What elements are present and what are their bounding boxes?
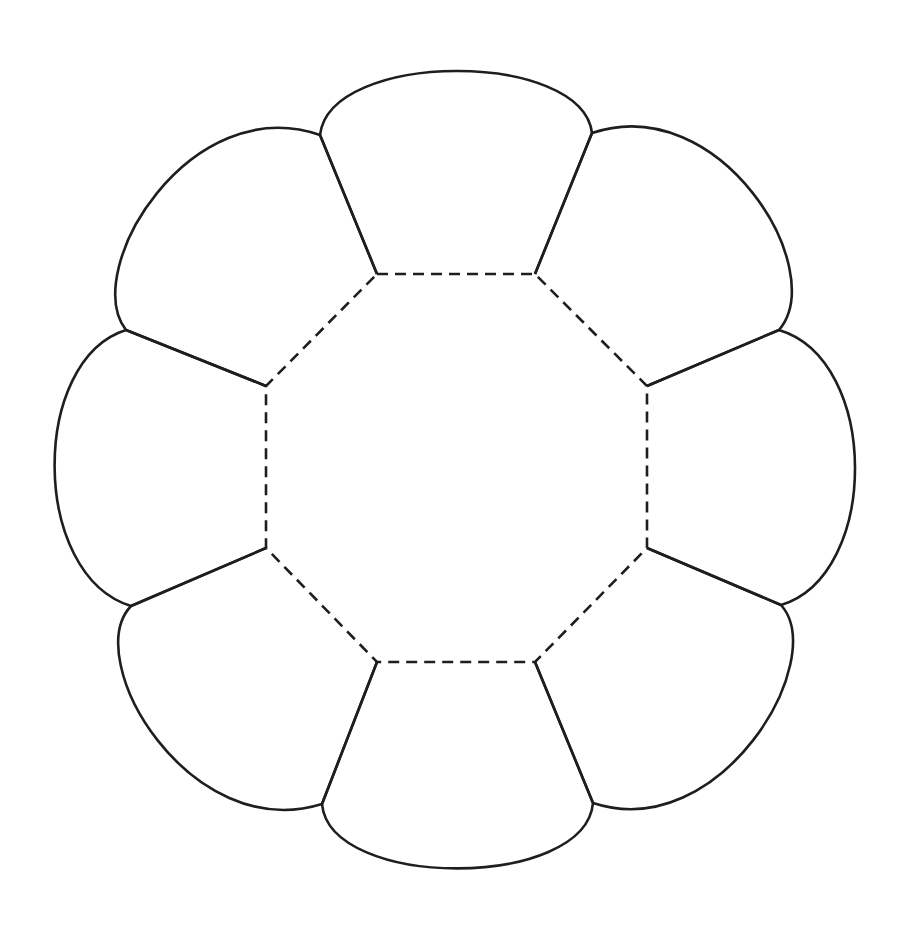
dashed-octagon xyxy=(266,274,647,662)
petal-outline xyxy=(55,330,266,606)
petal-left xyxy=(55,330,266,606)
petal-outline xyxy=(118,548,377,810)
petal-top-left xyxy=(115,128,377,386)
petal-right xyxy=(647,330,855,605)
petal-top-right xyxy=(535,126,792,386)
diagram-canvas xyxy=(0,0,907,933)
petal-outline xyxy=(647,330,855,605)
petal-bottom-right xyxy=(535,548,793,809)
petal-top xyxy=(320,71,592,274)
octagon-flower-diagram xyxy=(0,0,907,933)
petals-group xyxy=(55,71,855,868)
petal-outline xyxy=(322,662,593,868)
petal-outline xyxy=(535,548,793,809)
petal-outline xyxy=(115,128,377,386)
petal-outline xyxy=(320,71,592,274)
petal-bottom xyxy=(322,662,593,868)
petal-bottom-left xyxy=(118,548,377,810)
petal-outline xyxy=(535,126,792,386)
